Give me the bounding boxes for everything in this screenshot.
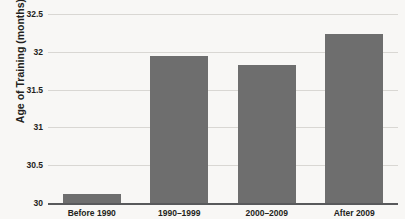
x-tick-label: 2000–2009 <box>219 208 315 218</box>
x-tick-label: Before 1990 <box>44 208 140 218</box>
bar-chart: Age of Training (months) 3030.53131.5323… <box>0 0 405 219</box>
y-tick-label: 31 <box>34 122 43 132</box>
bar <box>63 194 121 203</box>
bar <box>150 56 208 203</box>
chart-title <box>46 0 346 4</box>
bar <box>238 65 296 203</box>
x-axis-line: 30 <box>48 203 398 205</box>
bar <box>325 34 383 203</box>
gridline: 32.5 <box>48 14 398 15</box>
y-tick-label: 32.5 <box>26 9 43 19</box>
y-tick-label: 31.5 <box>26 85 43 95</box>
x-tick-label: After 2009 <box>306 208 402 218</box>
y-tick-label: 30.5 <box>26 160 43 170</box>
x-tick-label: 1990–1999 <box>131 208 227 218</box>
y-tick-label: 32 <box>34 47 43 57</box>
y-axis-title: Age of Training (months) <box>14 0 26 136</box>
y-tick-label: 30 <box>34 198 43 208</box>
plot-area: 3030.53131.53232.5Before 19901990–199920… <box>48 14 398 203</box>
